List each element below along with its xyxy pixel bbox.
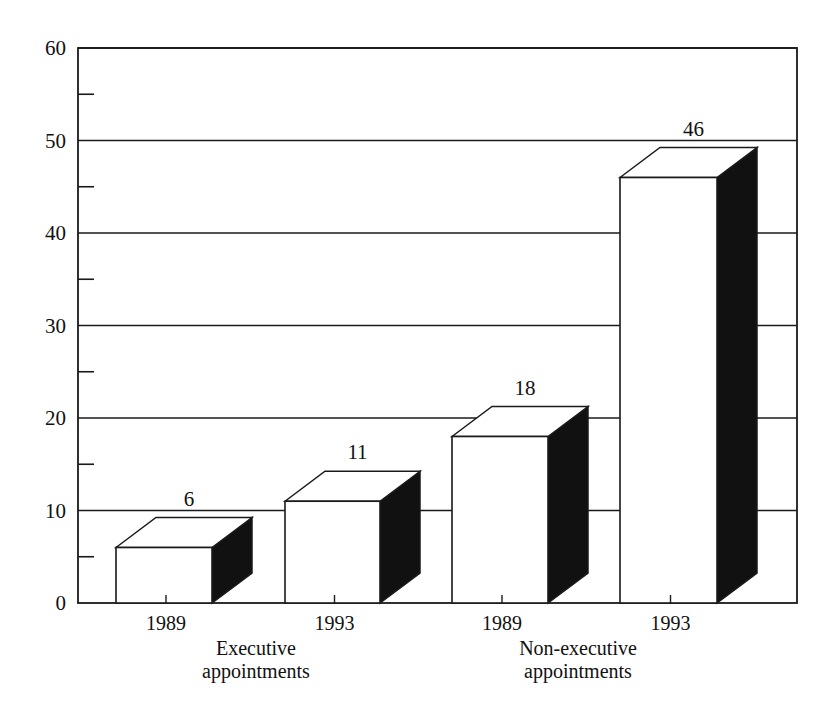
y-tick-label: 30 xyxy=(45,314,66,338)
bar xyxy=(116,518,252,604)
data-label: 11 xyxy=(347,440,367,464)
x-tick-label: 1989 xyxy=(482,612,522,634)
x-tick-label: 1993 xyxy=(651,612,691,634)
y-tick-label: 0 xyxy=(56,591,67,615)
bar-side xyxy=(548,407,588,604)
x-tick-label: 1993 xyxy=(315,612,355,634)
y-tick-label: 40 xyxy=(45,221,66,245)
bar-front xyxy=(452,437,548,604)
group-label: Executive xyxy=(216,637,296,659)
bar xyxy=(285,471,420,603)
bar-front xyxy=(620,178,717,604)
data-label: 6 xyxy=(184,487,195,511)
bar-side xyxy=(717,148,757,604)
y-tick-label: 10 xyxy=(45,499,66,523)
x-tick-label: 1989 xyxy=(146,612,186,634)
y-tick-label: 50 xyxy=(45,129,66,153)
group-label: appointments xyxy=(524,660,632,683)
bars xyxy=(116,148,757,604)
group-label: appointments xyxy=(202,660,310,683)
y-tick-label: 60 xyxy=(45,36,66,60)
bar xyxy=(452,407,588,604)
data-label: 46 xyxy=(683,117,704,141)
bar xyxy=(620,148,757,604)
bar-front xyxy=(116,548,212,604)
data-label: 18 xyxy=(515,376,536,400)
y-tick-label: 20 xyxy=(45,406,66,430)
group-label: Non-executive xyxy=(519,637,637,659)
bar-front xyxy=(285,501,380,603)
bar-chart: 010203040506061989111993181989461993Exec… xyxy=(0,0,830,722)
